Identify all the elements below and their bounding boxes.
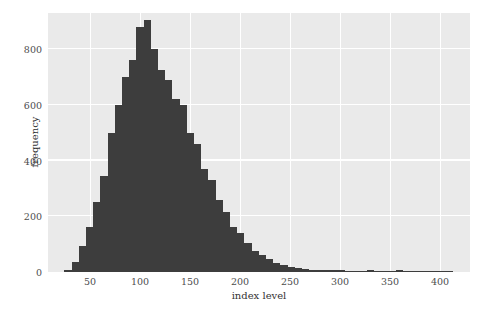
histogram-bar <box>417 271 424 272</box>
histogram-bar <box>295 268 302 272</box>
histogram-bar <box>230 227 237 272</box>
histogram-bar <box>324 270 331 272</box>
y-tick-label: 0 <box>36 267 42 278</box>
histogram-bar <box>86 227 93 272</box>
histogram-figure: 50100150200250300350400 0200400600800 in… <box>0 0 494 310</box>
histogram-bar <box>244 243 251 272</box>
x-tick-label: 50 <box>84 276 96 287</box>
histogram-bar <box>345 271 352 272</box>
histogram-bar <box>208 180 215 272</box>
histogram-bar <box>201 169 208 272</box>
histogram-bar <box>223 212 230 272</box>
histogram-bar <box>187 133 194 272</box>
histogram-bar <box>424 271 431 272</box>
histogram-bar <box>360 271 367 272</box>
histogram-bar <box>410 271 417 272</box>
histogram-bar <box>108 133 115 272</box>
histogram-bar <box>381 271 388 272</box>
histogram-bar <box>338 270 345 272</box>
histogram-bar <box>64 270 71 272</box>
histogram-bar <box>165 80 172 272</box>
y-axis-label: frequency <box>29 117 40 168</box>
histogram-bar <box>194 144 201 272</box>
histogram-bar <box>115 105 122 272</box>
y-tick-label: 600 <box>24 99 42 110</box>
histogram-bar <box>374 271 381 272</box>
histogram-bar <box>273 263 280 272</box>
histogram-bar <box>446 271 453 272</box>
histogram-bar <box>79 246 86 272</box>
x-tick-label: 300 <box>331 276 349 287</box>
y-tick-label: 200 <box>24 211 42 222</box>
histogram-bar <box>432 271 439 272</box>
histogram-bar <box>122 77 129 272</box>
histogram-bar <box>288 267 295 272</box>
histogram-bar <box>237 233 244 272</box>
histogram-bar <box>151 49 158 272</box>
histogram-bar <box>439 271 446 272</box>
x-tick-label: 350 <box>381 276 399 287</box>
histogram-bar <box>144 20 151 272</box>
histogram-bar <box>302 269 309 272</box>
x-tick-label: 150 <box>181 276 199 287</box>
histogram-bar <box>388 271 395 272</box>
histogram-bar <box>172 99 179 272</box>
histogram-bars <box>48 13 470 272</box>
y-tick-label: 800 <box>24 44 42 55</box>
histogram-bar <box>259 255 266 272</box>
histogram-bar <box>280 265 287 272</box>
x-tick-label: 200 <box>231 276 249 287</box>
histogram-bar <box>266 259 273 272</box>
histogram-bar <box>158 70 165 272</box>
histogram-bar <box>367 270 374 272</box>
histogram-bar <box>309 270 316 273</box>
histogram-bar <box>216 200 223 272</box>
histogram-bar <box>331 270 338 272</box>
histogram-bar <box>129 60 136 272</box>
histogram-bar <box>403 271 410 272</box>
histogram-bar <box>316 270 323 272</box>
histogram-bar <box>252 251 259 272</box>
plot-area <box>48 13 470 272</box>
histogram-bar <box>72 262 79 272</box>
histogram-bar <box>136 27 143 272</box>
x-tick-label: 250 <box>281 276 299 287</box>
x-axis-label: index level <box>232 290 287 301</box>
histogram-bar <box>180 105 187 272</box>
x-tick-label: 400 <box>431 276 449 287</box>
histogram-bar <box>396 270 403 272</box>
x-tick-label: 100 <box>131 276 149 287</box>
histogram-bar <box>93 202 100 272</box>
histogram-bar <box>100 176 107 272</box>
histogram-bar <box>352 271 359 272</box>
